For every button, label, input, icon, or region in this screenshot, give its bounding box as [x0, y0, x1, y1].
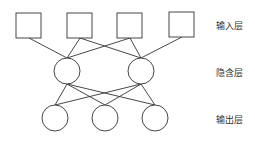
input-node — [67, 13, 92, 38]
input-nodes — [16, 12, 194, 38]
output-node — [42, 105, 68, 131]
input-node — [169, 12, 194, 37]
input-node — [16, 13, 41, 38]
output-layer-label: 输出层 — [216, 113, 243, 126]
connections-hidden-output — [55, 84, 155, 105]
output-node — [92, 105, 118, 131]
output-node — [142, 105, 168, 131]
input-node — [117, 13, 142, 38]
hidden-layer-label: 隐含层 — [216, 66, 243, 79]
connections-input-hidden — [29, 37, 182, 58]
hidden-node — [128, 58, 154, 84]
output-nodes — [42, 105, 168, 131]
hidden-node — [54, 58, 80, 84]
input-layer-label: 输入层 — [216, 19, 243, 32]
hidden-nodes — [54, 58, 154, 84]
